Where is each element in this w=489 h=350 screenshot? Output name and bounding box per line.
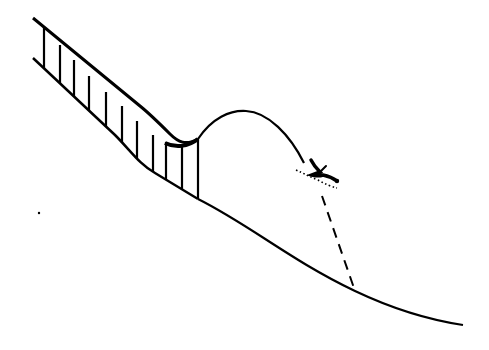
diagram-svg (0, 0, 489, 350)
inrun-lower-rail (33, 58, 198, 199)
speck (38, 212, 40, 214)
flight-trajectory (198, 111, 304, 163)
skier-icon (296, 160, 339, 188)
ramp-supports (44, 28, 198, 199)
ski-jump-diagram (0, 0, 489, 350)
